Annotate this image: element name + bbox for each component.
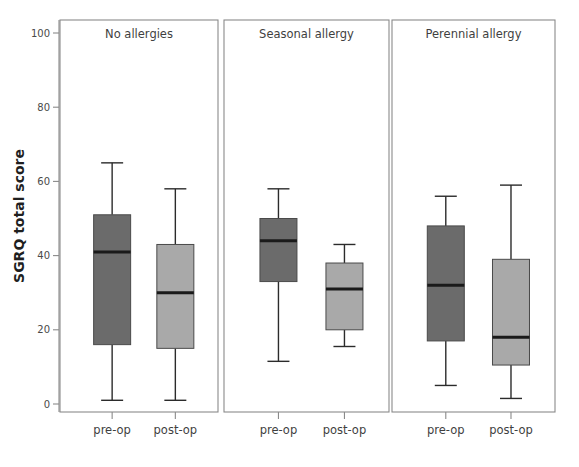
y-axis-tick-label: 20 bbox=[37, 324, 50, 335]
x-axis-tick-label: post-op bbox=[323, 423, 367, 437]
box-iqr[interactable] bbox=[260, 219, 297, 282]
box-iqr[interactable] bbox=[94, 215, 131, 345]
box-iqr[interactable] bbox=[427, 226, 464, 341]
chart-canvas: 020406080100SGRQ total score No allergie… bbox=[0, 0, 579, 467]
y-axis-tick-label: 0 bbox=[44, 399, 50, 410]
box-iqr[interactable] bbox=[326, 263, 363, 330]
y-axis-tick-label: 60 bbox=[37, 176, 50, 187]
panel-title: No allergies bbox=[105, 27, 173, 41]
box-iqr[interactable] bbox=[157, 244, 194, 348]
y-axis-title: SGRQ total score bbox=[11, 149, 27, 283]
y-axis-tick-label: 80 bbox=[37, 102, 50, 113]
boxplot-figure: 020406080100SGRQ total score No allergie… bbox=[0, 0, 579, 467]
x-axis-tick-label: pre-op bbox=[93, 423, 131, 437]
panel-title: Perennial allergy bbox=[426, 27, 522, 41]
x-axis-tick-label: pre-op bbox=[260, 423, 298, 437]
x-axis-tick-label: pre-op bbox=[427, 423, 465, 437]
y-axis-tick-label: 40 bbox=[37, 250, 50, 261]
y-axis-tick-label: 100 bbox=[31, 28, 50, 39]
box-iqr[interactable] bbox=[492, 259, 529, 365]
x-axis-tick-label: post-op bbox=[489, 423, 533, 437]
x-axis-tick-label: post-op bbox=[154, 423, 198, 437]
panel-title: Seasonal allergy bbox=[259, 27, 354, 41]
